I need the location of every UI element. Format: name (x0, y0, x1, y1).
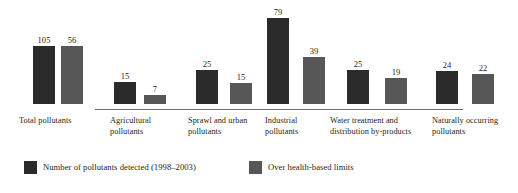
bar-group-total-pollutants: 105 56 (22, 0, 94, 104)
category-label-line: Agricultural (110, 116, 188, 127)
bar-group-sprawl-and-urban-pollutants: 25 15 (184, 0, 264, 104)
legend-label: Number of pollutants detected (1998–2003… (43, 162, 196, 173)
bar-value-label: 22 (479, 63, 488, 73)
legend-swatch-icon (24, 161, 37, 174)
bar-slot: 19 (385, 0, 407, 104)
bar-slot: 25 (347, 0, 369, 104)
bar-group-water-treatment-and-distribution-by-products: 25 19 (334, 0, 420, 104)
bar-series-over-limit (303, 57, 325, 104)
category-label-sprawl-and-urban-pollutants: Sprawl and urban pollutants (188, 116, 270, 137)
bar-slot: 15 (114, 0, 136, 104)
bar-value-label: 39 (310, 46, 319, 56)
category-label-line: distribution by-products (330, 127, 434, 138)
bar-series-detected (267, 18, 289, 104)
bar-slot: 15 (230, 0, 252, 104)
bar-series-over-limit (230, 83, 252, 104)
bar-slot: 22 (472, 0, 494, 104)
bar-group-naturally-occurring-pollutants: 24 22 (428, 0, 502, 104)
legend-label: Over health-based limits (268, 162, 354, 173)
bar-slot: 39 (303, 0, 325, 104)
bar-slot: 56 (61, 0, 83, 104)
category-label-water-treatment-and-distribution-by-products: Water treatment and distribution by-prod… (330, 116, 434, 137)
bar-value-label: 25 (354, 59, 363, 69)
bar-series-over-limit (61, 46, 83, 104)
category-label-total-pollutants: Total pollutants (19, 116, 109, 127)
category-labels: Total pollutants Agricultural pollutants… (0, 116, 518, 146)
bar-value-label: 15 (237, 72, 246, 82)
axis-baseline-rule (95, 109, 463, 110)
bar-value-label: 15 (121, 71, 130, 81)
category-label-line: Sprawl and urban (188, 116, 270, 127)
bar-series-detected (436, 71, 458, 104)
bar-value-label: 25 (203, 59, 212, 69)
bar-value-label: 105 (37, 35, 50, 45)
bar-slot: 25 (196, 0, 218, 104)
chart-legend: Number of pollutants detected (1998–2003… (0, 161, 518, 181)
category-label-line: Naturally occurring (432, 116, 518, 127)
bar-slot: 24 (436, 0, 458, 104)
category-label-line: Water treatment and (330, 116, 434, 127)
bar-series-detected (33, 46, 55, 104)
bar-series-over-limit (144, 95, 166, 104)
bar-series-detected (196, 70, 218, 104)
plot-area: 105 56 15 7 (0, 0, 518, 104)
bar-slot: 79 (267, 0, 289, 104)
category-label-agricultural-pollutants: Agricultural pollutants (110, 116, 188, 137)
bar-chart: 105 56 15 7 (0, 0, 518, 193)
bar-value-label: 24 (443, 60, 452, 70)
bar-value-label: 7 (153, 84, 157, 94)
category-label-line: Industrial (265, 116, 337, 127)
category-label-line: pollutants (265, 127, 337, 138)
bar-series-detected (114, 82, 136, 104)
bar-series-over-limit (385, 78, 407, 104)
bar-slot: 105 (33, 0, 55, 104)
bar-value-label: 79 (274, 7, 283, 17)
category-label-line: pollutants (432, 127, 518, 138)
bar-value-label: 19 (392, 67, 401, 77)
category-label-industrial-pollutants: Industrial pollutants (265, 116, 337, 137)
bar-group-industrial-pollutants: 79 39 (256, 0, 336, 104)
category-label-naturally-occurring-pollutants: Naturally occurring pollutants (432, 116, 518, 137)
bar-group-agricultural-pollutants: 15 7 (104, 0, 176, 104)
category-label-line: pollutants (188, 127, 270, 138)
legend-swatch-icon (249, 161, 262, 174)
legend-item-detected: Number of pollutants detected (1998–2003… (24, 161, 196, 174)
bar-series-detected (347, 70, 369, 104)
bar-series-over-limit (472, 74, 494, 104)
bar-slot: 7 (144, 0, 166, 104)
category-label-line: Total pollutants (19, 116, 109, 127)
bar-value-label: 56 (68, 35, 77, 45)
legend-item-over-limit: Over health-based limits (249, 161, 354, 174)
category-label-line: pollutants (110, 127, 188, 138)
